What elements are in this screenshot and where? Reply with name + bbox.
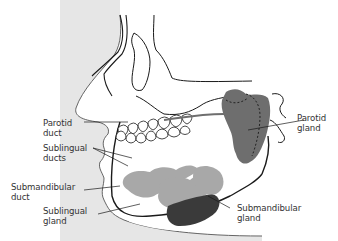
label-text: Parotid	[297, 113, 326, 123]
label-text: duct	[11, 192, 75, 202]
label-text: Parotid	[43, 118, 72, 128]
label-text: gland	[43, 216, 87, 226]
label-submandibular-duct: Submandibular duct	[11, 182, 75, 202]
label-text: ducts	[43, 153, 87, 163]
label-text: Submandibular	[237, 203, 301, 213]
label-text: gland	[297, 123, 326, 133]
salivary-gland-diagram: Parotid duct Sublingual ducts Submandibu…	[0, 0, 338, 241]
label-parotid-gland: Parotid gland	[297, 113, 326, 133]
label-text: Submandibular	[11, 182, 75, 192]
label-sublingual-ducts: Sublingual ducts	[43, 143, 87, 163]
label-text: Sublingual	[43, 143, 87, 153]
zygomatic-bone	[154, 15, 253, 82]
label-text: gland	[237, 213, 301, 223]
label-text: duct	[43, 128, 72, 138]
label-submandibular-gland: Submandibular gland	[237, 203, 301, 223]
label-parotid-duct: Parotid duct	[43, 118, 72, 138]
label-text: Sublingual	[43, 206, 87, 216]
label-sublingual-gland: Sublingual gland	[43, 206, 87, 226]
